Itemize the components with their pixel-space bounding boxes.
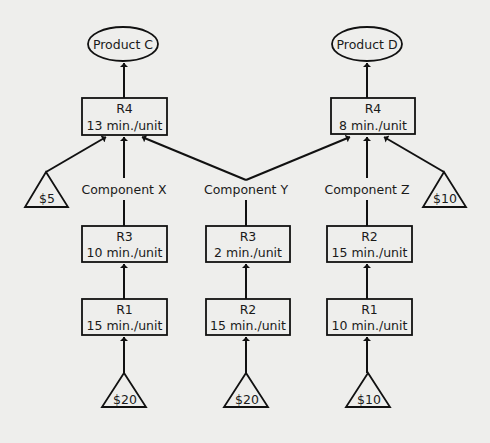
material-cost-10: $10 — [357, 392, 381, 407]
material-cost-10: $10 — [433, 191, 457, 206]
resource-time: 10 min./unit — [87, 245, 163, 260]
resource-name: R4 — [365, 101, 382, 116]
material-cost-5: $5 — [39, 191, 55, 206]
resource-name: R2 — [361, 229, 378, 244]
resource-name: R2 — [240, 302, 257, 317]
edge-10-to-r4-d — [384, 137, 444, 172]
resource-time: 8 min./unit — [339, 118, 407, 133]
resource-time: 15 min./unit — [210, 318, 286, 333]
material-cost-20: $20 — [113, 392, 137, 407]
component-y-label: Component Y — [204, 182, 289, 197]
product-c-label: Product C — [93, 37, 153, 52]
resource-name: R1 — [116, 302, 133, 317]
resource-name: R4 — [116, 101, 133, 116]
product-c-node: Product C — [88, 27, 158, 61]
component-x-label: Component X — [81, 182, 167, 197]
product-d-node: Product D — [332, 27, 402, 61]
edge-component-y-to-r4-d — [246, 137, 350, 180]
product-flow-diagram: Product C Product D R4 13 min./unit R4 8… — [0, 0, 490, 443]
resource-time: 13 min./unit — [87, 118, 163, 133]
product-d-label: Product D — [336, 37, 397, 52]
resource-time: 10 min./unit — [332, 318, 408, 333]
resource-name: R3 — [240, 229, 257, 244]
edge-5-to-r4-c — [46, 137, 106, 172]
resource-name: R3 — [116, 229, 133, 244]
resource-time: 15 min./unit — [332, 245, 408, 260]
resource-name: R1 — [361, 302, 378, 317]
material-cost-20: $20 — [235, 392, 259, 407]
resource-time: 2 min./unit — [214, 245, 282, 260]
resource-time: 15 min./unit — [87, 318, 163, 333]
component-z-label: Component Z — [324, 182, 409, 197]
edge-component-y-to-r4-c — [142, 137, 246, 180]
